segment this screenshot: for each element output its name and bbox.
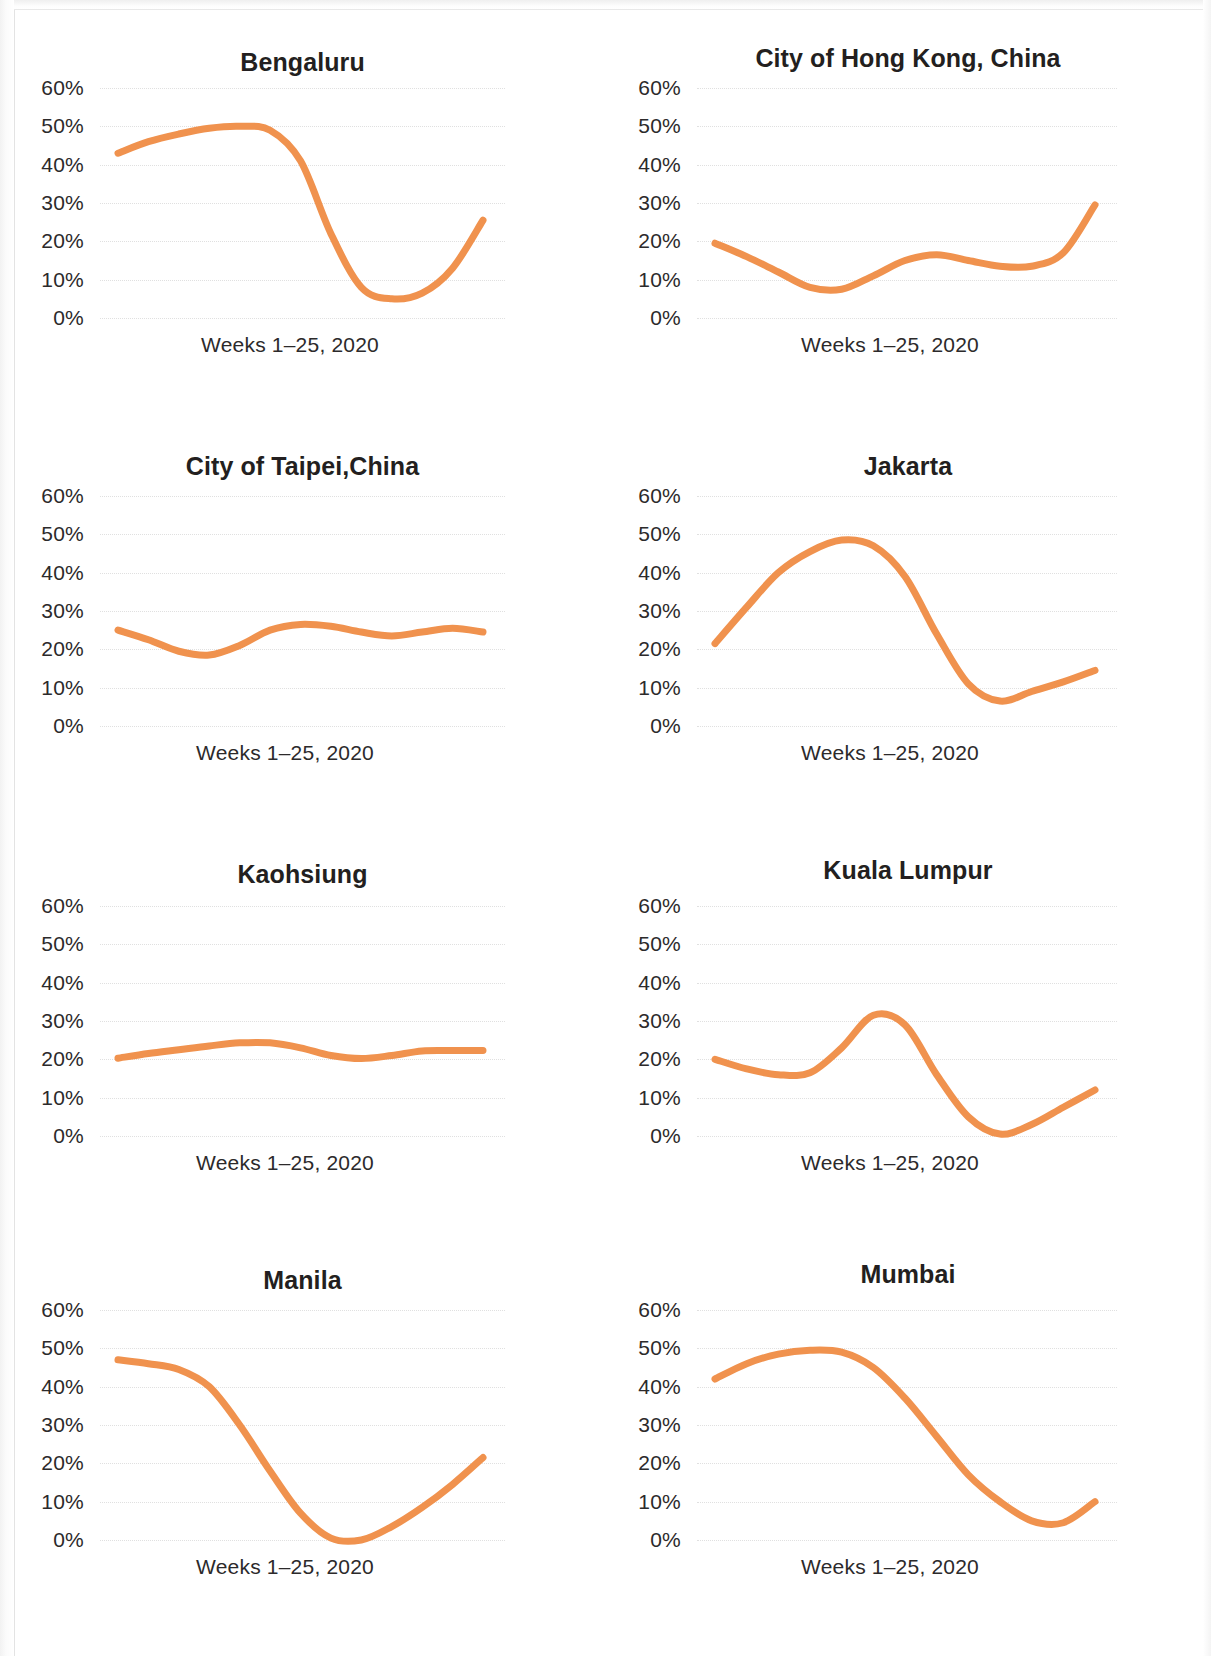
x-axis-label-taipei: Weeks 1–25, 2020 bbox=[100, 741, 470, 765]
chart-title-bengaluru: Bengaluru bbox=[0, 48, 605, 77]
y-tick-label-hongkong-30: 30% bbox=[603, 191, 681, 215]
chart-panel-manila: Manila60%50%40%30%20%10%0%Weeks 1–25, 20… bbox=[0, 1242, 605, 1656]
chart-panel-bengaluru: Bengaluru60%50%40%30%20%10%0%Weeks 1–25,… bbox=[0, 0, 605, 414]
y-tick-label-jakarta-30: 30% bbox=[603, 599, 681, 623]
y-tick-label-mumbai-40: 40% bbox=[603, 1375, 681, 1399]
y-tick-label-hongkong-0: 0% bbox=[603, 306, 681, 330]
x-axis-label-mumbai: Weeks 1–25, 2020 bbox=[705, 1555, 1075, 1579]
chart-title-hongkong: City of Hong Kong, China bbox=[605, 44, 1211, 73]
gridline-kualalumpur-0 bbox=[697, 1136, 1117, 1137]
series-line-manila bbox=[100, 1310, 505, 1540]
y-tick-label-manila-20: 20% bbox=[6, 1451, 84, 1475]
series-path-taipei bbox=[118, 624, 483, 655]
y-tick-label-kualalumpur-60: 60% bbox=[603, 894, 681, 918]
y-tick-label-kualalumpur-0: 0% bbox=[603, 1124, 681, 1148]
y-tick-label-hongkong-10: 10% bbox=[603, 268, 681, 292]
x-axis-label-kaohsiung: Weeks 1–25, 2020 bbox=[100, 1151, 470, 1175]
series-path-kaohsiung bbox=[118, 1042, 483, 1058]
y-tick-label-bengaluru-0: 0% bbox=[6, 306, 84, 330]
y-tick-label-taipei-60: 60% bbox=[6, 484, 84, 508]
gridline-manila-0 bbox=[100, 1540, 505, 1541]
y-tick-label-kualalumpur-20: 20% bbox=[603, 1047, 681, 1071]
y-tick-label-kaohsiung-60: 60% bbox=[6, 894, 84, 918]
series-path-mumbai bbox=[715, 1350, 1095, 1525]
series-path-bengaluru bbox=[118, 126, 483, 299]
plot-area-hongkong: 60%50%40%30%20%10%0% bbox=[697, 88, 1117, 318]
y-tick-label-jakarta-20: 20% bbox=[603, 637, 681, 661]
series-line-kaohsiung bbox=[100, 906, 505, 1136]
gridline-kaohsiung-0 bbox=[100, 1136, 505, 1137]
y-tick-label-mumbai-10: 10% bbox=[603, 1490, 681, 1514]
plot-area-bengaluru: 60%50%40%30%20%10%0% bbox=[100, 88, 505, 318]
plot-area-kualalumpur: 60%50%40%30%20%10%0% bbox=[697, 906, 1117, 1136]
plot-area-mumbai: 60%50%40%30%20%10%0% bbox=[697, 1310, 1117, 1540]
y-tick-label-kaohsiung-50: 50% bbox=[6, 932, 84, 956]
gridline-taipei-0 bbox=[100, 726, 505, 727]
y-tick-label-kaohsiung-30: 30% bbox=[6, 1009, 84, 1033]
plot-area-kaohsiung: 60%50%40%30%20%10%0% bbox=[100, 906, 505, 1136]
y-tick-label-taipei-0: 0% bbox=[6, 714, 84, 738]
y-tick-label-bengaluru-40: 40% bbox=[6, 153, 84, 177]
gridline-bengaluru-0 bbox=[100, 318, 505, 319]
chart-title-manila: Manila bbox=[0, 1266, 605, 1295]
y-tick-label-bengaluru-10: 10% bbox=[6, 268, 84, 292]
y-tick-label-bengaluru-50: 50% bbox=[6, 114, 84, 138]
series-path-kualalumpur bbox=[715, 1014, 1095, 1135]
y-tick-label-manila-0: 0% bbox=[6, 1528, 84, 1552]
chart-title-kaohsiung: Kaohsiung bbox=[0, 860, 605, 889]
chart-title-kualalumpur: Kuala Lumpur bbox=[605, 856, 1211, 885]
chart-title-jakarta: Jakarta bbox=[605, 452, 1211, 481]
y-tick-label-kualalumpur-10: 10% bbox=[603, 1086, 681, 1110]
y-tick-label-manila-10: 10% bbox=[6, 1490, 84, 1514]
y-tick-label-mumbai-0: 0% bbox=[603, 1528, 681, 1552]
chart-panel-jakarta: Jakarta60%50%40%30%20%10%0%Weeks 1–25, 2… bbox=[605, 414, 1211, 828]
y-tick-label-hongkong-50: 50% bbox=[603, 114, 681, 138]
y-tick-label-hongkong-40: 40% bbox=[603, 153, 681, 177]
x-axis-label-kualalumpur: Weeks 1–25, 2020 bbox=[705, 1151, 1075, 1175]
y-tick-label-taipei-30: 30% bbox=[6, 599, 84, 623]
series-line-hongkong bbox=[697, 88, 1117, 318]
chart-panel-kualalumpur: Kuala Lumpur60%50%40%30%20%10%0%Weeks 1–… bbox=[605, 828, 1211, 1242]
series-line-kualalumpur bbox=[697, 906, 1117, 1136]
series-path-manila bbox=[118, 1360, 483, 1542]
y-tick-label-kaohsiung-40: 40% bbox=[6, 971, 84, 995]
plot-area-jakarta: 60%50%40%30%20%10%0% bbox=[697, 496, 1117, 726]
chart-panel-hongkong: City of Hong Kong, China60%50%40%30%20%1… bbox=[605, 0, 1211, 414]
y-tick-label-kaohsiung-20: 20% bbox=[6, 1047, 84, 1071]
y-tick-label-kualalumpur-40: 40% bbox=[603, 971, 681, 995]
y-tick-label-taipei-40: 40% bbox=[6, 561, 84, 585]
series-path-jakarta bbox=[715, 540, 1095, 702]
y-tick-label-jakarta-10: 10% bbox=[603, 676, 681, 700]
y-tick-label-kualalumpur-30: 30% bbox=[603, 1009, 681, 1033]
y-tick-label-kaohsiung-0: 0% bbox=[6, 1124, 84, 1148]
chart-title-mumbai: Mumbai bbox=[605, 1260, 1211, 1289]
chart-panel-mumbai: Mumbai60%50%40%30%20%10%0%Weeks 1–25, 20… bbox=[605, 1242, 1211, 1656]
y-tick-label-jakarta-0: 0% bbox=[603, 714, 681, 738]
x-axis-label-hongkong: Weeks 1–25, 2020 bbox=[705, 333, 1075, 357]
series-line-mumbai bbox=[697, 1310, 1117, 1540]
y-tick-label-bengaluru-30: 30% bbox=[6, 191, 84, 215]
y-tick-label-manila-60: 60% bbox=[6, 1298, 84, 1322]
x-axis-label-bengaluru: Weeks 1–25, 2020 bbox=[105, 333, 475, 357]
chart-panel-taipei: City of Taipei,China60%50%40%30%20%10%0%… bbox=[0, 414, 605, 828]
y-tick-label-mumbai-20: 20% bbox=[603, 1451, 681, 1475]
y-tick-label-manila-40: 40% bbox=[6, 1375, 84, 1399]
y-tick-label-taipei-50: 50% bbox=[6, 522, 84, 546]
gridline-jakarta-0 bbox=[697, 726, 1117, 727]
y-tick-label-mumbai-30: 30% bbox=[603, 1413, 681, 1437]
series-line-jakarta bbox=[697, 496, 1117, 726]
chart-title-taipei: City of Taipei,China bbox=[0, 452, 605, 481]
series-path-hongkong bbox=[715, 205, 1095, 290]
y-tick-label-mumbai-50: 50% bbox=[603, 1336, 681, 1360]
gridline-mumbai-0 bbox=[697, 1540, 1117, 1541]
y-tick-label-jakarta-50: 50% bbox=[603, 522, 681, 546]
y-tick-label-taipei-10: 10% bbox=[6, 676, 84, 700]
x-axis-label-jakarta: Weeks 1–25, 2020 bbox=[705, 741, 1075, 765]
plot-area-manila: 60%50%40%30%20%10%0% bbox=[100, 1310, 505, 1540]
y-tick-label-hongkong-60: 60% bbox=[603, 76, 681, 100]
y-tick-label-taipei-20: 20% bbox=[6, 637, 84, 661]
y-tick-label-manila-50: 50% bbox=[6, 1336, 84, 1360]
y-tick-label-manila-30: 30% bbox=[6, 1413, 84, 1437]
small-multiples-grid: Bengaluru60%50%40%30%20%10%0%Weeks 1–25,… bbox=[0, 0, 1211, 1656]
plot-area-taipei: 60%50%40%30%20%10%0% bbox=[100, 496, 505, 726]
